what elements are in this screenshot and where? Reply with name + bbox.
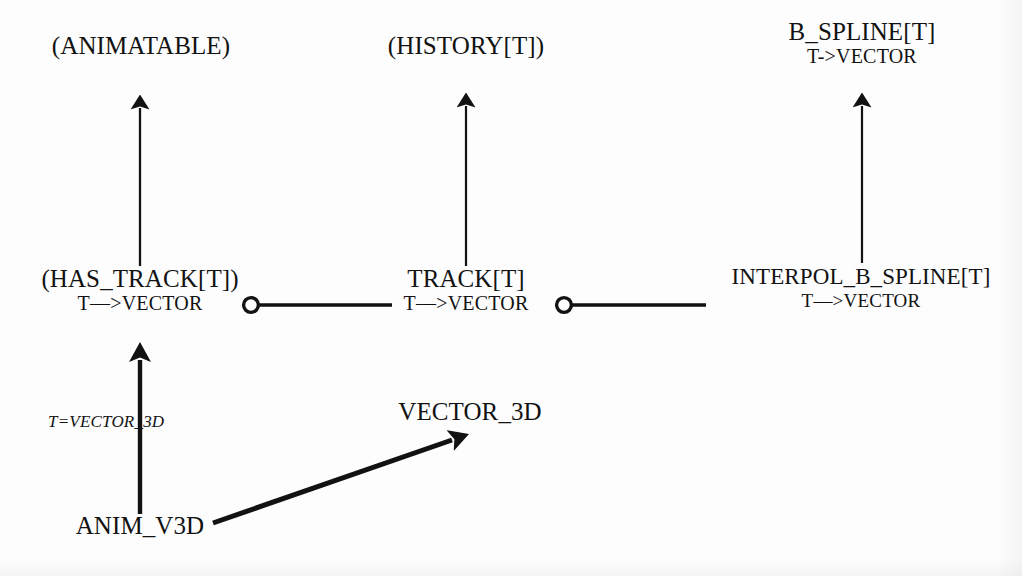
node-track[interactable]: TRACK[T] T—>VECTOR xyxy=(348,265,584,315)
edge-label-anim-v3d-generic: T=VECTOR_3D xyxy=(48,412,164,432)
node-track-name: TRACK[T] xyxy=(348,265,584,292)
node-b-spline-name: B_SPLINE[T] xyxy=(742,18,982,45)
node-anim-v3d-name: ANIM_V3D xyxy=(36,512,244,539)
node-history-name: (HISTORY[T]) xyxy=(346,32,586,59)
node-vector-3d[interactable]: VECTOR_3D xyxy=(370,398,570,425)
node-animatable-name: (ANIMATABLE) xyxy=(16,32,266,59)
node-interpol-b-spline[interactable]: INTERPOL_B_SPLINE[T] T—>VECTOR xyxy=(700,265,1022,311)
node-has-track-name: (HAS_TRACK[T]) xyxy=(12,265,268,292)
node-vector-3d-name: VECTOR_3D xyxy=(370,398,570,425)
node-track-signature: T—>VECTOR xyxy=(348,293,584,315)
node-has-track-signature: T—>VECTOR xyxy=(12,293,268,315)
node-b-spline[interactable]: B_SPLINE[T] T->VECTOR xyxy=(742,18,982,68)
node-has-track[interactable]: (HAS_TRACK[T]) T—>VECTOR xyxy=(12,265,268,315)
node-history[interactable]: (HISTORY[T]) xyxy=(346,32,586,59)
diagram-canvas: (ANIMATABLE) (HISTORY[T]) B_SPLINE[T] T-… xyxy=(0,0,1022,576)
node-animatable[interactable]: (ANIMATABLE) xyxy=(16,32,266,59)
node-anim-v3d[interactable]: ANIM_V3D xyxy=(36,512,244,539)
node-b-spline-signature: T->VECTOR xyxy=(742,46,982,68)
node-interpol-b-spline-signature: T—>VECTOR xyxy=(700,291,1022,312)
client-edge-anim-v3d-to-vector-3d xyxy=(213,440,452,523)
node-interpol-b-spline-name: INTERPOL_B_SPLINE[T] xyxy=(700,265,1022,290)
